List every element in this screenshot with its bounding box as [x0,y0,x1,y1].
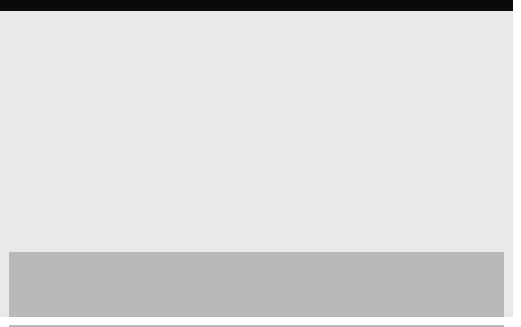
top-black-bar [0,0,513,11]
bottom-gutter [0,317,521,325]
right-gutter [513,0,521,325]
chart-legend [9,252,504,327]
figure-body [0,11,513,317]
plot-area [57,69,471,215]
stacked-area-chart [57,69,471,215]
